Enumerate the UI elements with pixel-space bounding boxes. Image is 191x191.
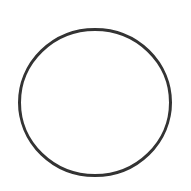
diagram-canvas — [0, 0, 191, 191]
circle-diagram — [0, 0, 191, 191]
circle-outline — [20, 30, 171, 176]
